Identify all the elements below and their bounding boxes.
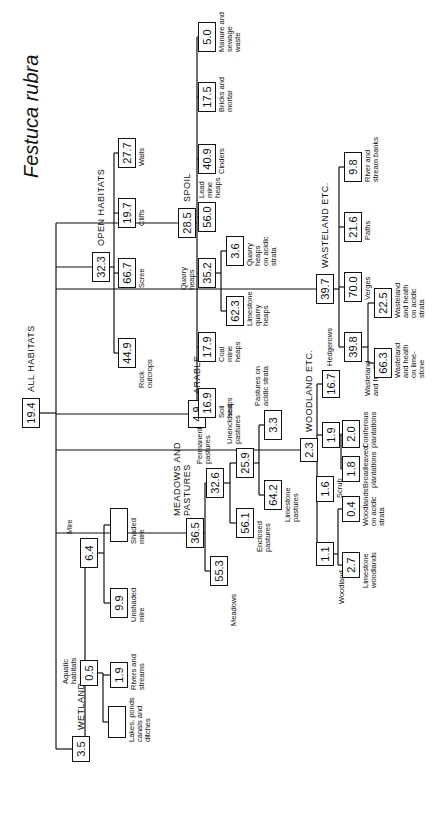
node-label-pastures-acidic: Pastures on acidic strata — [254, 366, 270, 406]
node-label-walls: Walls — [138, 148, 146, 166]
node-box-verges: 70.0 — [344, 272, 362, 302]
node-box-spoil: 28.5 — [178, 208, 196, 238]
node-box-woodland: 1.1 — [316, 542, 334, 566]
node-label-aquatic: Aquatic habitats — [62, 658, 78, 684]
node-box-wh-acidic: 22.5 — [374, 288, 392, 318]
node-label-lakes: Lakes, ponds canals and ditches — [128, 697, 152, 742]
node-label-verges: Verges — [364, 277, 372, 300]
node-box-soil-heaps: 16.9 — [198, 388, 216, 418]
node-box-cinders: 40.9 — [198, 144, 216, 174]
node-label-woodlands-acidic: Woodlands on acidic strata — [362, 489, 386, 526]
node-box-limestone-woodlands: 2.7 — [342, 552, 360, 578]
node-label-permanent-pastures: Permanent pastures — [196, 427, 212, 464]
node-label-rivers: Rivers and streams — [130, 654, 146, 690]
species-title: Festuca rubra — [20, 55, 43, 178]
node-box-wh-limestone: 66.3 — [374, 348, 392, 378]
node-box-cliffs: 19.7 — [118, 198, 136, 228]
node-label-scree: Scree — [138, 268, 146, 288]
node-box-permanent-pastures: 32.6 — [206, 468, 224, 498]
node-label-manure: Manure and sewage waste — [218, 12, 242, 52]
node-box-unenclosed-pastures: 25.9 — [236, 448, 254, 478]
node-box-rivers: 1.9 — [110, 662, 128, 688]
node-box-river-banks: 9.8 — [344, 152, 362, 182]
node-label-limestone-woodlands: Limestone woodlands — [362, 552, 378, 588]
node-box-quarry-acidic: 3.6 — [226, 236, 244, 266]
node-label-wh-limestone: Wasteland and heath on lime- stone — [394, 343, 426, 378]
node-label-quarry-heaps: Quarry heaps — [180, 267, 196, 290]
node-label-woodland-etc: WOODLAND ETC. — [304, 349, 314, 432]
node-box-woodland-etc: 2.3 — [300, 438, 318, 462]
node-box-mire: 6.4 — [80, 538, 98, 568]
node-label-lead-mine: Lead mine heaps — [198, 178, 222, 198]
node-box-scrub: 1.6 — [316, 476, 334, 502]
node-box-coal-mine: 17.9 — [198, 332, 216, 362]
node-label-wh-acidic: Wasteland and heath on acidic strata — [394, 283, 426, 318]
node-label-quarry-acidic: Quarry heaps on acidic strata — [246, 236, 278, 266]
node-box-meadows: 55.3 — [210, 556, 228, 586]
node-label-bricks: Bricks and mortar — [218, 77, 234, 112]
node-label-rock-outcrops: Rock outcrops — [138, 359, 154, 388]
node-label-cinders: Cinders — [218, 148, 226, 174]
node-box-paths: 21.6 — [344, 212, 362, 242]
node-box-enclosed-pastures: 56.1 — [236, 508, 254, 538]
node-box-manure: 5.0 — [198, 22, 216, 52]
node-box-plantations: 1.9 — [322, 422, 340, 448]
node-box-open-habitats: 32.3 — [92, 252, 110, 282]
node-label-shaded-mire: Shaded mire — [130, 518, 146, 544]
node-label-open-habitats: OPEN HABITATS — [96, 169, 106, 246]
node-box-all: 19.4 — [22, 398, 40, 428]
node-label-hedgerows: Hedgerows — [326, 328, 334, 366]
node-box-wasteland-heath: 39.8 — [344, 332, 362, 362]
node-box-shaded-mire — [110, 508, 128, 542]
node-box-rock-outcrops: 44.9 — [118, 338, 136, 368]
node-label-unshaded-mire: Unshaded mire — [130, 588, 146, 622]
node-label-enclosed-pastures: Enclosed pastures — [256, 521, 272, 552]
node-label-limestone-quarry: Limestone quarry heaps — [246, 291, 270, 326]
node-label-coal-mine: Coal mine heaps — [218, 342, 242, 362]
node-label-river-banks: River and stream banks — [364, 137, 380, 182]
habitat-tree-diagram: Festuca rubra 19.4ALL HABITATS3.5WETLAND… — [0, 0, 439, 818]
node-label-spoil: SPOIL — [182, 173, 192, 202]
node-box-wasteland-etc: 39.7 — [316, 274, 334, 304]
node-label-meadows-pastures: MEADOWS AND PASTURES — [172, 442, 192, 516]
node-label-meadows: Meadows — [230, 594, 238, 626]
node-label-mire: Mire — [66, 519, 74, 534]
node-box-wetland: 3.5 — [72, 736, 90, 762]
node-box-scree: 66.7 — [118, 258, 136, 288]
node-box-coniferous: 2.0 — [342, 420, 360, 448]
node-box-limestone-quarry: 62.3 — [226, 296, 244, 326]
node-box-quarry-heaps: 35.2 — [198, 258, 216, 288]
node-label-limestone-pastures: Limestone pastures — [284, 487, 300, 522]
node-label-wetland: WETLAND — [76, 682, 86, 730]
node-label-cliffs: Cliffs — [138, 209, 146, 226]
node-box-woodlands-acidic: 0.4 — [342, 496, 360, 522]
node-label-broadleaved: Broadleaved plantations — [362, 446, 378, 488]
node-box-meadows-pastures: 36.5 — [186, 518, 204, 548]
node-box-aquatic: 0.5 — [80, 660, 98, 686]
node-box-lakes — [108, 706, 126, 738]
node-label-wasteland-etc: WASTELAND ETC. — [320, 182, 330, 268]
node-label-coniferous: Coniferous plantations — [362, 412, 378, 448]
node-label-all: ALL HABITATS — [26, 325, 36, 392]
node-box-walls: 27.7 — [118, 138, 136, 168]
node-box-bricks: 17.5 — [198, 82, 216, 112]
node-box-hedgerows: 16.7 — [322, 370, 340, 398]
node-box-pastures-acidic: 3.3 — [264, 410, 282, 440]
node-box-lead-mine: 56.0 — [198, 202, 216, 232]
node-box-unshaded-mire: 9.9 — [110, 588, 128, 618]
node-label-soil-heaps: Soil heaps — [218, 398, 234, 418]
node-label-paths: Paths — [364, 221, 372, 240]
node-box-broadleaved: 1.8 — [342, 456, 360, 482]
node-box-limestone-pastures: 64.2 — [264, 480, 282, 510]
